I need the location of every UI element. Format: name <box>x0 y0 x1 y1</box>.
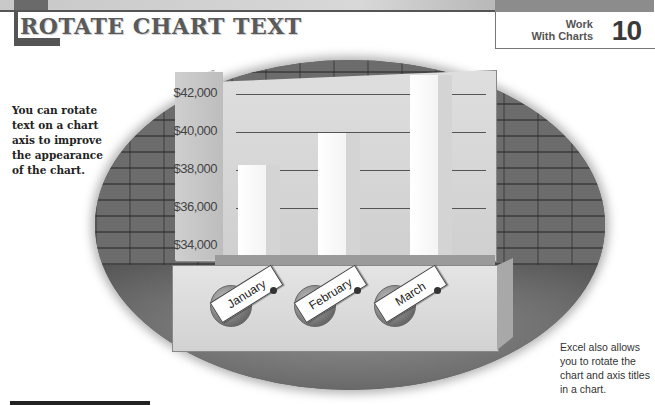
y-tick-36000: $36,000 <box>143 199 217 214</box>
bar-february <box>318 133 346 255</box>
gridline <box>236 132 486 133</box>
y-tick-38000: $38,000 <box>143 161 217 176</box>
pin-icon <box>434 287 441 294</box>
header-rule <box>0 10 495 12</box>
page-title: ROTATE CHART TEXT <box>20 13 302 39</box>
category-axis-base-side <box>497 258 513 350</box>
top-bar <box>0 0 654 10</box>
pin-icon <box>270 287 277 294</box>
bar-march <box>410 75 438 255</box>
title-accent-foot <box>14 38 60 46</box>
gridline <box>236 208 486 209</box>
gridline <box>236 94 486 95</box>
bottom-rule <box>10 401 150 405</box>
chapter-label-line1: Work <box>531 18 593 30</box>
chapter-label: Work With Charts <box>531 18 593 42</box>
bar-january <box>238 165 266 255</box>
top-bar-accent-left <box>14 0 48 10</box>
category-label-february: February <box>292 283 380 343</box>
y-tick-42000: $42,000 <box>143 85 217 100</box>
pin-icon <box>354 287 361 294</box>
y-tick-40000: $40,000 <box>143 123 217 138</box>
side-note: Excel also allows you to rotate the char… <box>560 340 652 396</box>
y-tick-34000: $34,000 <box>143 237 217 252</box>
plot-area <box>236 80 486 255</box>
chapter-number: 10 <box>612 15 641 47</box>
gridline <box>236 170 486 171</box>
chapter-box: Work With Charts 10 <box>495 12 655 49</box>
category-label-january: January <box>208 283 296 343</box>
chapter-label-line2: With Charts <box>531 30 593 42</box>
category-label-march: March <box>372 283 460 343</box>
